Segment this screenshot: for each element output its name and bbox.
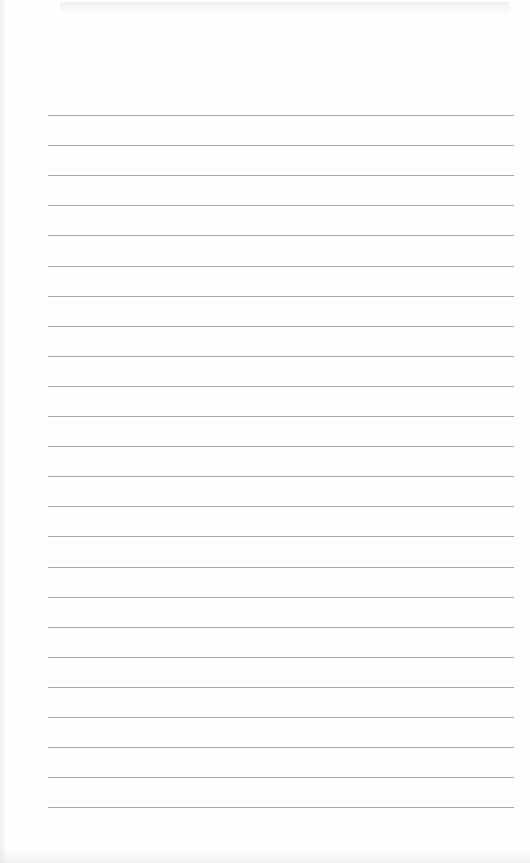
ruled-line: [48, 446, 514, 447]
ruled-line: [48, 807, 514, 808]
ruled-line: [48, 386, 514, 387]
ruled-line: [48, 175, 514, 176]
ruled-line: [48, 145, 514, 146]
ruled-line: [48, 627, 514, 628]
ruled-line: [48, 687, 514, 688]
ruled-line: [48, 506, 514, 507]
ruled-line: [48, 115, 514, 116]
ruled-line: [48, 296, 514, 297]
ruled-line: [48, 567, 514, 568]
ruled-line: [48, 356, 514, 357]
paper-left-edge-shadow: [0, 0, 6, 863]
ruled-line: [48, 416, 514, 417]
ruled-line: [48, 536, 514, 537]
ruled-line: [48, 657, 514, 658]
ruled-line: [48, 747, 514, 748]
ruled-line: [48, 717, 514, 718]
ruled-line: [48, 777, 514, 778]
ruled-line: [48, 266, 514, 267]
ruled-line: [48, 235, 514, 236]
lined-paper-sheet: [0, 0, 530, 863]
bottom-bleed-through-marks: [0, 848, 530, 863]
ruled-line: [48, 326, 514, 327]
ruled-line: [48, 205, 514, 206]
ruled-line: [48, 476, 514, 477]
ruled-line: [48, 597, 514, 598]
top-bleed-through-marks: [60, 2, 510, 14]
